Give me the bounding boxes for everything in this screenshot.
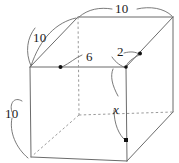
label-top-face-six: 6 xyxy=(86,50,93,63)
edge-front-left-vertical xyxy=(30,67,31,157)
dot-front-right-x xyxy=(124,138,128,142)
label-x-height: x xyxy=(113,103,119,116)
edge-top-right-depth xyxy=(126,17,173,67)
dot-diagonal-two xyxy=(138,52,142,56)
figure-container: 10 10 10 6 2 x xyxy=(0,0,179,163)
label-top-face-two: 2 xyxy=(117,45,124,58)
leader-top-depth-right xyxy=(137,8,172,16)
edge-bottom-front xyxy=(31,157,127,161)
leader-top-depth-left xyxy=(79,8,112,17)
leader-x-upper xyxy=(112,69,118,96)
label-top-depth: 10 xyxy=(115,2,129,15)
hidden-edge-bottom-left-depth xyxy=(31,115,79,157)
edge-bottom-right-depth xyxy=(127,112,173,161)
point-markers xyxy=(59,52,143,143)
label-upper-left-depth: 10 xyxy=(33,31,47,44)
hidden-edge-back-left-vertical xyxy=(78,17,79,115)
leader-six xyxy=(62,55,82,67)
leader-left-height-lower xyxy=(11,118,28,158)
label-left-height: 10 xyxy=(5,107,19,120)
box-diagram-svg xyxy=(0,0,179,163)
edge-front-right-vertical xyxy=(126,67,127,161)
leader-two-upper xyxy=(124,52,139,54)
box-solid-edges xyxy=(30,17,173,161)
dot-top-face-right xyxy=(124,65,128,69)
dot-top-face-left xyxy=(59,65,63,69)
box-hidden-edges xyxy=(31,17,173,157)
